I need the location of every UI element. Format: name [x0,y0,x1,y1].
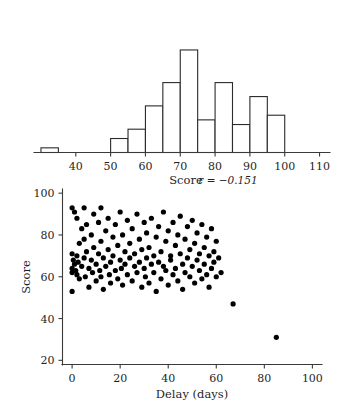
scatter-y-ticks [59,193,63,360]
scatter-point [146,280,151,285]
scatter-point [118,257,123,262]
scatter-x-tick-label: 100 [302,372,323,385]
scatter-point [82,255,87,260]
scatter-point [125,218,130,223]
scatter-point [74,216,79,221]
scatter-point [90,270,95,275]
scatter-point [144,230,149,235]
scatter-point [202,245,207,250]
scatter-point [170,272,175,277]
scatter-point [151,253,156,258]
scatter-point [70,289,75,294]
scatter-point [108,260,113,265]
scatter-point [175,278,180,283]
scatter-point [182,270,187,275]
scatter-point [74,253,79,258]
scatter-point [146,245,151,250]
scatter-point [151,270,156,275]
scatter-point [192,241,197,246]
scatter-point [230,301,235,306]
scatter-point [130,226,135,231]
histogram-x-tick-label: 100 [274,160,295,173]
scatter-point [168,257,173,262]
scatter-point [139,285,144,290]
scatter-point [77,241,82,246]
scatter-point [166,228,171,233]
scatter-point [115,243,120,248]
histogram-bars [41,50,285,153]
correlation-annotation: r = −0.151 [198,174,257,186]
scatter-point [134,211,139,216]
scatter-point [84,249,89,254]
score-histogram-panel: 405060708090100110 Score [34,50,330,187]
scatter-point [216,255,221,260]
scatter-point [143,274,148,279]
scatter-point [158,276,163,281]
scatter-point [180,287,185,292]
scatter-point [106,247,111,252]
scatter-y-tick-label: 40 [41,313,55,326]
scatter-point [77,276,82,281]
scatter-point [194,230,199,235]
scatter-point [130,278,135,283]
scatter-point [156,224,161,229]
scatter-x-ticks [72,365,312,369]
scatter-point [122,249,127,254]
scatter-y-axis-label: Score [19,260,33,294]
scatter-x-tick-labels: 020406080100 [69,372,323,385]
scatter-point [98,205,103,210]
scatter-point [154,289,159,294]
scatter-point [84,222,89,227]
scatter-point [122,262,127,267]
histogram-x-tick-label: 80 [208,160,222,173]
scatter-point [173,266,178,271]
scatter-x-tick-label: 0 [69,372,76,385]
scatter-point [211,249,216,254]
scatter-point [86,266,91,271]
histogram-x-tick-label: 110 [309,160,330,173]
scatter-point [209,266,214,271]
scatter-point [101,287,106,292]
scatter-point [97,268,102,273]
histogram-x-tick-label: 40 [69,160,83,173]
scatter-point [103,228,108,233]
scatter-point [107,272,112,277]
scatter-point [199,222,204,227]
scatter-point [182,237,187,242]
scatter-point [96,220,101,225]
scatter-point [79,264,84,269]
scatter-point [110,253,115,258]
histogram-x-ticks [76,153,320,157]
scatter-point [101,255,106,260]
scatter-x-tick-label: 40 [161,372,175,385]
scatter-point [161,209,166,214]
scatter-point [163,268,168,273]
scatter-point [163,239,168,244]
scatter-point [211,260,216,265]
histogram-bar [267,115,284,152]
scatter-point [125,272,130,277]
scatter-point [120,283,125,288]
scatter-point [106,216,111,221]
scatter-point [113,268,118,273]
histogram-x-tick-label: 60 [138,160,152,173]
scatter-point [170,220,175,225]
scatter-point [137,237,142,242]
figure-svg: 405060708090100110 Score 20406080100 020… [0,0,342,413]
scatter-point [103,264,108,269]
scatter-point [137,260,142,265]
histogram-bar [41,148,58,153]
scatter-point [79,226,84,231]
histogram-x-tick-label: 50 [104,160,118,173]
scatter-point [190,218,195,223]
scatter-point [187,274,192,279]
scatter-point [173,243,178,248]
scatter-point [89,232,94,237]
scatter-point [83,274,88,279]
histogram-x-tick-label: 90 [243,160,257,173]
scatter-y-tick-label: 80 [41,229,55,242]
histogram-bar [111,139,128,153]
scatter-y-tick-labels: 20406080100 [34,187,55,367]
scatter-point [209,226,214,231]
scatter-y-tick-label: 100 [34,187,55,200]
